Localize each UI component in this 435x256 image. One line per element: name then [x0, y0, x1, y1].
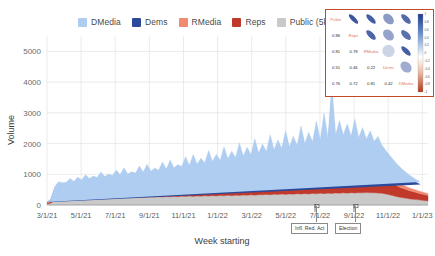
- correlation-matrix-inset: Public0.86Reps0.810.78RMedia0.510.460.22…: [325, 9, 434, 97]
- annotation-marker[interactable]: [314, 198, 320, 206]
- y-tick-label: 1000: [23, 170, 41, 179]
- corr-value: 0.51: [332, 65, 341, 70]
- corr-ellipse: [400, 45, 412, 57]
- y-tick-label: 3000: [23, 109, 41, 118]
- area-series-dmedia: [47, 84, 420, 202]
- colorbar-tick-label: 1: [425, 12, 427, 16]
- colorbar-tick-label: -0.2: [425, 59, 431, 63]
- x-tick-label: 3/1/21: [37, 211, 58, 220]
- y-tick-label: 5000: [23, 47, 41, 56]
- colorbar-tick-label: -0.6: [425, 75, 431, 79]
- chart-root: DMediaDemsRMediaRepsPublic (5k) 01000200…: [0, 0, 435, 256]
- corr-diagonal-label: Reps: [349, 33, 359, 38]
- x-tick-label: 1/1/23: [412, 211, 433, 220]
- y-tick-label: 0: [37, 201, 42, 210]
- colorbar-tick-label: 0: [425, 51, 427, 55]
- y-tick-label: 2000: [23, 140, 41, 149]
- area-layer: [47, 84, 428, 205]
- colorbar-tick-label: 0.4: [425, 36, 430, 40]
- x-tick-label: 3/1/22: [241, 211, 262, 220]
- corr-value: 0.81: [367, 81, 376, 86]
- annotation-connector: [355, 206, 356, 222]
- corr-value: 0.42: [384, 81, 393, 86]
- y-tick-label: 4000: [23, 78, 41, 87]
- corr-value: 0.72: [349, 81, 358, 86]
- annotation-connector: [316, 206, 317, 222]
- corr-ellipse: [399, 28, 412, 41]
- corr-diagonal-label: Dems: [383, 65, 394, 70]
- corr-diagonal-label: DMedia: [399, 81, 414, 86]
- corr-ellipse: [381, 12, 396, 27]
- x-tick-label: 7/1/22: [310, 211, 331, 220]
- x-tick-label: 9/1/21: [139, 211, 160, 220]
- colorbar-tick-label: 0.8: [425, 20, 430, 24]
- y-axis-title: Volume: [6, 115, 16, 145]
- colorbar-tick-label: 0.6: [425, 28, 430, 32]
- corr-value: 0.46: [349, 65, 358, 70]
- colorbar-tick-label: -0.8: [425, 82, 431, 86]
- annotation-label-box[interactable]: Election: [335, 223, 361, 234]
- x-tick-label: 7/1/21: [105, 211, 126, 220]
- corr-ellipse: [365, 29, 378, 42]
- x-tick-label: 1/1/22: [207, 211, 228, 220]
- corr-value: 0.81: [332, 49, 341, 54]
- corr-ellipse: [400, 13, 413, 26]
- corr-value: 0.78: [349, 49, 358, 54]
- corr-ellipse: [365, 13, 377, 25]
- annotation-label-box[interactable]: Infl. Red. Act: [291, 223, 328, 234]
- colorbar-tick-label: -1: [425, 90, 428, 94]
- colorbar-tick-label: -0.4: [425, 67, 431, 71]
- corr-ellipse: [381, 27, 396, 42]
- corr-ellipse: [380, 42, 397, 59]
- corr-ellipse: [348, 13, 360, 25]
- corr-diagonal-label: RMedia: [364, 49, 379, 54]
- corr-value: 0.86: [332, 33, 341, 38]
- x-tick-label: 5/1/21: [71, 211, 92, 220]
- corr-value: 0.22: [367, 65, 376, 70]
- x-axis-title: Week starting: [195, 236, 250, 246]
- corr-diagonal-label: Public: [330, 17, 341, 22]
- annotation-marker[interactable]: [353, 198, 359, 206]
- corr-colorbar: 10.80.60.40.20-0.2-0.4-0.6-0.8-1: [418, 12, 430, 94]
- corr-cells: Public0.86Reps0.810.78RMedia0.510.460.22…: [330, 12, 414, 86]
- x-tick-label: 5/1/22: [276, 211, 297, 220]
- x-tick-label: 11/1/22: [376, 211, 400, 220]
- corr-ellipse: [398, 59, 414, 75]
- colorbar-tick-label: 0.2: [425, 43, 430, 47]
- corr-value: 0.76: [332, 81, 341, 86]
- correlation-ellipse-svg: Public0.86Reps0.810.78RMedia0.510.460.22…: [326, 10, 433, 96]
- x-tick-label: 11/1/21: [171, 211, 195, 220]
